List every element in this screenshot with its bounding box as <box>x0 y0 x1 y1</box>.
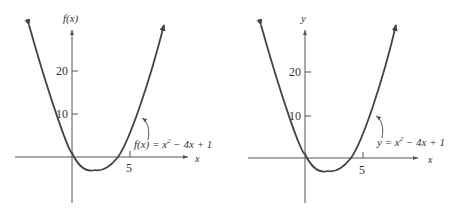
right-annotation-arrow <box>376 116 383 138</box>
left-ytick-label-10: 10 <box>56 107 68 121</box>
left-xtick-label-5: 5 <box>126 161 132 175</box>
figure: f(x) x 20 10 5 f(x) = x2 − 4x + 1 y x 20… <box>0 0 461 214</box>
right-ytick-label-20: 20 <box>289 65 301 79</box>
right-y-axis-label: y <box>300 12 306 24</box>
right-parabola <box>261 25 396 172</box>
left-x-axis-label: x <box>194 153 200 164</box>
right-chart: y x 20 10 5 y = x2 − 4x + 1 <box>248 12 445 203</box>
left-ytick-label-20: 20 <box>56 64 68 78</box>
left-chart: f(x) x 20 10 5 f(x) = x2 − 4x + 1 <box>15 12 212 203</box>
right-ytick-label-10: 10 <box>289 109 301 123</box>
right-equation-label: y = x2 − 4x + 1 <box>376 135 445 148</box>
right-xtick-label-5: 5 <box>359 163 365 177</box>
left-equation-label: f(x) = x2 − 4x + 1 <box>134 137 212 151</box>
left-y-axis-label: f(x) <box>63 12 79 25</box>
right-x-axis-label: x <box>427 154 433 165</box>
left-annotation-arrow <box>142 118 149 140</box>
